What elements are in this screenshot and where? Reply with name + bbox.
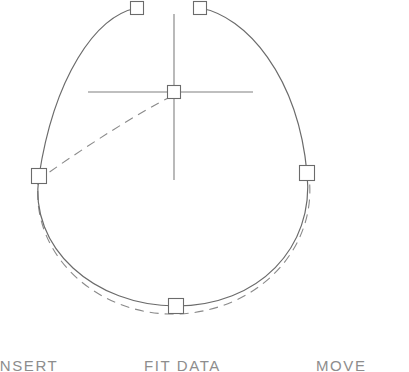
canvas-vector-layer	[0, 0, 409, 344]
menu-item-fit-data[interactable]: FIT DATA	[144, 358, 221, 372]
control-handle-top-left[interactable]	[131, 2, 144, 15]
control-handle-right[interactable]	[300, 166, 315, 181]
control-handle-group	[32, 2, 315, 314]
drawing-canvas[interactable]	[0, 0, 409, 344]
dashed-radius-line	[41, 96, 172, 178]
menu-item-move[interactable]: MOVE	[316, 358, 367, 372]
control-handle-center[interactable]	[168, 86, 181, 99]
control-handle-bottom[interactable]	[169, 299, 184, 314]
menu-item-insert[interactable]: INSERT	[0, 358, 58, 372]
control-handle-top-right[interactable]	[194, 2, 207, 15]
curve-editor-window: INSERT FIT DATA MOVE	[0, 0, 409, 372]
spline-curve[interactable]	[38, 8, 308, 306]
bottom-menu-bar: INSERT FIT DATA MOVE	[0, 344, 409, 372]
dashed-reference-curve	[38, 176, 310, 314]
control-handle-left[interactable]	[32, 169, 47, 184]
